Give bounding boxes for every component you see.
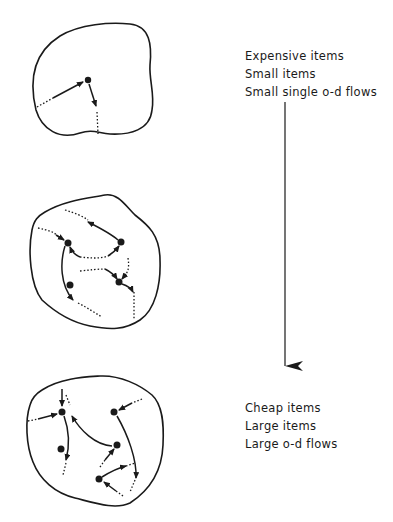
node [85,77,91,83]
panel-bottom [27,376,163,506]
region-boundary [30,195,160,329]
flow-dotted [66,395,70,405]
flow-arrow [53,82,83,98]
flow-arrow [119,403,132,410]
node [59,409,66,416]
flow-dotted [38,228,58,236]
label-cheap-items: Cheap items [245,399,338,417]
bottom-label-block: Cheap items Large items Large o-d flows [245,399,338,453]
flow-arrow [70,247,80,257]
flow-dotted [63,463,66,475]
flow-arrow [108,246,119,256]
flow-arrow [64,416,68,460]
flow-arrow [89,84,96,106]
node [96,476,103,483]
label-large-items: Large items [245,417,338,435]
label-small-items: Small items [245,65,377,83]
label-large-flows: Large o-d flows [245,435,338,453]
flow-dotted [126,258,129,274]
node [65,240,72,247]
node [118,239,125,246]
flow-arrow [56,235,64,240]
flow-dotted [126,463,135,466]
panel-top [33,23,153,135]
flow-arrow [105,269,117,279]
flow-arrow [102,466,126,477]
flow-arrow [122,274,126,279]
node [114,442,121,449]
flow-dotted [130,480,135,492]
flow-arrow [122,284,133,292]
flow-dotted [80,269,105,271]
flow-dotted [132,399,142,403]
flow-dotted [78,303,102,317]
flow-dotted [100,460,105,467]
flow-arrow [38,414,57,419]
top-label-block: Expensive items Small items Small single… [245,47,377,101]
distribution-flow-diagram: Expensive items Small items Small single… [0,0,393,522]
panel-middle [30,195,160,329]
flow-arrow [105,449,114,460]
flow-dotted [65,210,88,220]
flow-arrow [88,222,118,240]
flow-dotted [80,256,108,258]
region-boundary [33,23,153,135]
label-small-flows: Small single o-d flows [245,83,377,101]
node [111,409,118,416]
node [67,282,74,289]
flow-dotted [116,491,123,496]
node [116,279,123,286]
flow-arrow [62,246,73,300]
flow-arrow [72,416,112,446]
flow-arrow [104,482,116,491]
flow-dotted [37,98,53,107]
flow-dotted [97,112,98,134]
flow-dotted [28,419,38,421]
label-expensive-items: Expensive items [245,47,377,65]
node [58,446,65,453]
